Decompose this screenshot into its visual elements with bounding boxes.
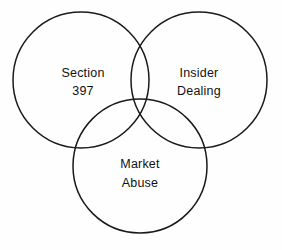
label-section-397-line1: Section bbox=[61, 66, 104, 80]
label-insider-dealing-line2: Dealing bbox=[177, 84, 221, 98]
venn-diagram-canvas: Section 397 Insider Dealing Market Abuse bbox=[0, 0, 282, 250]
venn-diagram-figure: Section 397 Insider Dealing Market Abuse bbox=[0, 0, 282, 250]
label-market-abuse-line2: Abuse bbox=[122, 176, 158, 190]
label-section-397-line2: 397 bbox=[72, 84, 93, 98]
label-insider-dealing-line1: Insider bbox=[180, 66, 219, 80]
label-market-abuse-line1: Market bbox=[120, 157, 160, 171]
